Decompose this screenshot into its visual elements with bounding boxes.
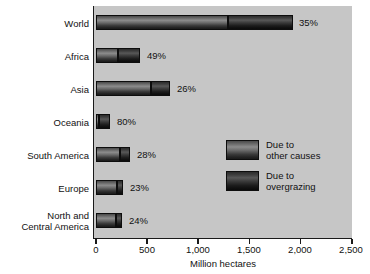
- x-ticklabel-1000: 1,000: [186, 244, 210, 255]
- bar-segment-other-causes: [96, 81, 151, 96]
- bar-segment-other-causes: [96, 147, 120, 162]
- bar-europe: [96, 180, 123, 195]
- value-label-europe: 23%: [130, 180, 149, 195]
- bar-segment-overgrazing: [99, 114, 110, 129]
- category-axis-labels: World Africa Asia Oceania South America …: [0, 6, 89, 239]
- bar-segment-other-causes: [96, 180, 117, 195]
- value-label-oceania: 80%: [117, 114, 136, 129]
- bar-world: [96, 15, 293, 30]
- category-label-asia: Asia: [0, 84, 89, 95]
- category-label-north-central-america-line2: Central America: [0, 221, 89, 232]
- x-ticklabel-500: 500: [139, 244, 155, 255]
- value-label-asia: 26%: [177, 81, 196, 96]
- bars-layer: 35% 49% 26% 80% 28% 23%: [96, 6, 352, 239]
- bar-segment-overgrazing: [117, 180, 123, 195]
- bar-africa: [96, 48, 140, 63]
- bar-north-central-america: [96, 213, 122, 228]
- bar-segment-overgrazing: [151, 81, 170, 96]
- category-label-south-america: South America: [0, 150, 89, 161]
- bar-chart: World Africa Asia Oceania South America …: [0, 0, 370, 274]
- legend-item-overgrazing: Due to overgrazing: [226, 171, 344, 192]
- other-causes-swatch-icon: [226, 140, 259, 160]
- bar-segment-overgrazing: [118, 48, 139, 63]
- x-ticklabel-2500: 2,500: [339, 244, 363, 255]
- value-label-north-central-america: 24%: [129, 213, 148, 228]
- category-label-oceania: Oceania: [0, 117, 89, 128]
- bar-oceania: [96, 114, 110, 129]
- bar-segment-overgrazing: [116, 213, 122, 228]
- bar-segment-overgrazing: [228, 15, 293, 30]
- value-label-south-america: 28%: [137, 147, 156, 162]
- bar-segment-other-causes: [96, 15, 228, 30]
- overgrazing-swatch-icon: [226, 171, 259, 191]
- bar-segment-other-causes: [96, 213, 116, 228]
- value-label-africa: 49%: [147, 48, 166, 63]
- legend-label-overgrazing-line1: Due to: [266, 171, 316, 182]
- value-label-world: 35%: [299, 15, 318, 30]
- category-label-north-central-america-line1: North and: [0, 210, 89, 221]
- legend-label-other-causes-line2: other causes: [266, 151, 320, 162]
- legend-label-overgrazing-line2: overgrazing: [266, 182, 316, 193]
- legend-label-overgrazing: Due to overgrazing: [266, 171, 316, 192]
- x-axis-title: Million hectares: [0, 258, 370, 269]
- x-ticklabel-2000: 2,000: [288, 244, 312, 255]
- category-label-europe: Europe: [0, 183, 89, 194]
- bar-segment-other-causes: [96, 48, 118, 63]
- x-axis-title-text: Million hectares: [190, 258, 256, 269]
- x-ticklabel-1500: 1,500: [237, 244, 261, 255]
- category-label-world: World: [0, 18, 89, 29]
- bar-asia: [96, 81, 170, 96]
- category-label-africa: Africa: [0, 51, 89, 62]
- x-ticklabel-0: 0: [93, 244, 98, 255]
- legend-label-other-causes-line1: Due to: [266, 140, 320, 151]
- legend-item-other-causes: Due to other causes: [226, 140, 344, 161]
- legend-label-other-causes: Due to other causes: [266, 140, 320, 161]
- bar-south-america: [96, 147, 130, 162]
- bar-segment-overgrazing: [120, 147, 129, 162]
- legend: Due to other causes Due to overgrazing: [226, 140, 344, 202]
